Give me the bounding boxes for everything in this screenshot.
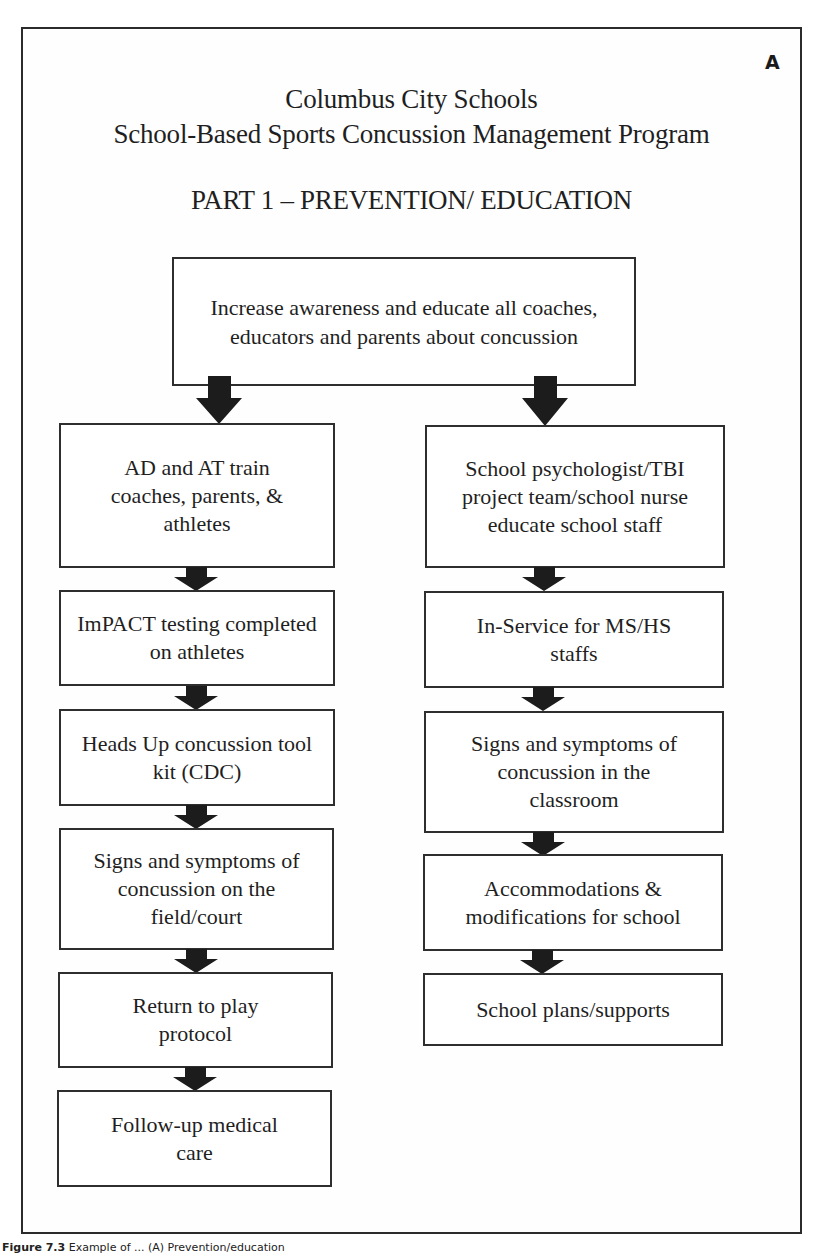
program-title: School-Based Sports Concussion Managemen… <box>21 119 802 150</box>
left-box-impact-testing: ImPACT testing completed on athletes <box>59 590 335 686</box>
arrow-down-icon <box>522 567 566 591</box>
right-box-in-service: In-Service for MS/HS staffs <box>424 591 724 688</box>
arrow-down-icon <box>521 832 565 856</box>
part-title: PART 1 – PREVENTION/ EDUCATION <box>21 185 802 216</box>
arrow-down-icon <box>521 687 565 711</box>
right-box-school-psychologist: School psychologist/TBI project team/sch… <box>425 425 725 568</box>
arrow-down-icon <box>174 949 218 973</box>
panel-label: A <box>765 51 780 73</box>
arrow-down-icon <box>174 805 218 829</box>
left-box-ad-at-train: AD and AT train coaches, parents, & athl… <box>59 423 335 568</box>
arrow-down-icon <box>522 376 568 426</box>
top-box-increase-awareness: Increase awareness and educate all coach… <box>172 257 636 386</box>
caption-text: Example of ... (A) Prevention/education <box>69 1241 285 1254</box>
arrow-down-icon <box>173 1067 217 1091</box>
left-box-signs-field: Signs and symptoms of concussion on the … <box>59 828 334 950</box>
org-title: Columbus City Schools <box>21 84 802 115</box>
left-box-heads-up-toolkit: Heads Up concussion tool kit (CDC) <box>59 709 335 806</box>
caption-label: Figure 7.3 <box>2 1241 65 1254</box>
right-box-accommodations: Accommodations & modifications for schoo… <box>423 854 723 951</box>
right-box-school-plans: School plans/supports <box>423 973 723 1046</box>
arrow-down-icon <box>174 686 218 710</box>
figure-caption: Figure 7.3 Example of ... (A) Prevention… <box>2 1241 285 1254</box>
arrow-down-icon <box>520 950 564 974</box>
arrow-down-icon <box>196 376 242 424</box>
arrow-down-icon <box>174 567 218 591</box>
right-box-signs-classroom: Signs and symptoms of concussion in the … <box>424 711 724 833</box>
left-box-follow-up-care: Follow-up medical care <box>57 1090 332 1187</box>
left-box-return-to-play: Return to play protocol <box>58 972 333 1068</box>
